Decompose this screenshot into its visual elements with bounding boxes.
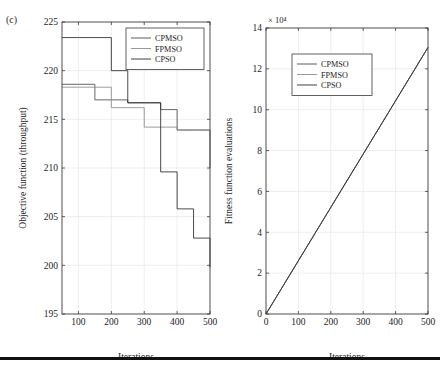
x-tick-label: 500 — [203, 317, 218, 327]
y-tick-label: 200 — [44, 261, 59, 271]
figure-container: (c) 100200300400500195200205210215220225… — [0, 0, 440, 366]
right-plot-svg: 010020030040050002468101214× 10⁴Iteratio… — [220, 0, 440, 366]
legend-label-cpmso: CPMSO — [155, 34, 183, 43]
y-tick-label: 10 — [253, 105, 263, 115]
y-tick-label: 220 — [44, 66, 59, 76]
y-tick-label: 215 — [44, 115, 59, 125]
x-tick-label: 100 — [71, 317, 86, 327]
y-axis-title: Fitness function evaluations — [224, 117, 234, 224]
x-tick-label: 300 — [137, 317, 152, 327]
legend-label-cpmso: CPMSO — [321, 60, 349, 69]
y-tick-label: 210 — [44, 163, 59, 173]
x-tick-label: 500 — [421, 317, 436, 327]
x-tick-label: 200 — [324, 317, 339, 327]
y-tick-label: 225 — [44, 17, 59, 27]
right-chart: 010020030040050002468101214× 10⁴Iteratio… — [220, 0, 440, 366]
x-tick-label: 200 — [104, 317, 119, 327]
axis-exponent-label: × 10⁴ — [268, 15, 287, 25]
legend-label-fpmso: FPMSO — [155, 45, 182, 54]
left-chart: 100200300400500195200205210215220225Iter… — [0, 0, 220, 366]
legend-label-fpmso: FPMSO — [321, 71, 348, 80]
left-plot-svg: 100200300400500195200205210215220225Iter… — [0, 0, 220, 366]
x-tick-label: 100 — [291, 317, 306, 327]
legend-label-cpso: CPSO — [155, 55, 176, 64]
series-cpmso — [62, 84, 210, 168]
series-cpso — [62, 38, 210, 268]
x-tick-label: 300 — [356, 317, 371, 327]
y-tick-label: 6 — [257, 187, 262, 197]
y-tick-label: 205 — [44, 212, 59, 222]
y-axis-title: Objective function (throughput) — [18, 107, 29, 228]
y-tick-label: 2 — [257, 268, 262, 278]
x-tick-label: 0 — [264, 317, 269, 327]
y-tick-label: 4 — [257, 228, 262, 238]
legend-label-cpso: CPSO — [321, 81, 342, 90]
legend: CPMSOFPMSOCPSO — [292, 54, 372, 96]
y-tick-label: 14 — [253, 23, 263, 33]
y-tick-label: 0 — [257, 309, 262, 319]
legend: CPMSOFPMSOCPSO — [126, 28, 204, 70]
y-tick-label: 195 — [44, 309, 59, 319]
x-tick-label: 400 — [170, 317, 185, 327]
y-tick-label: 8 — [257, 146, 262, 156]
x-tick-label: 400 — [388, 317, 403, 327]
y-tick-label: 12 — [253, 64, 263, 74]
series-fpmso — [62, 87, 210, 130]
bottom-divider — [0, 357, 440, 360]
